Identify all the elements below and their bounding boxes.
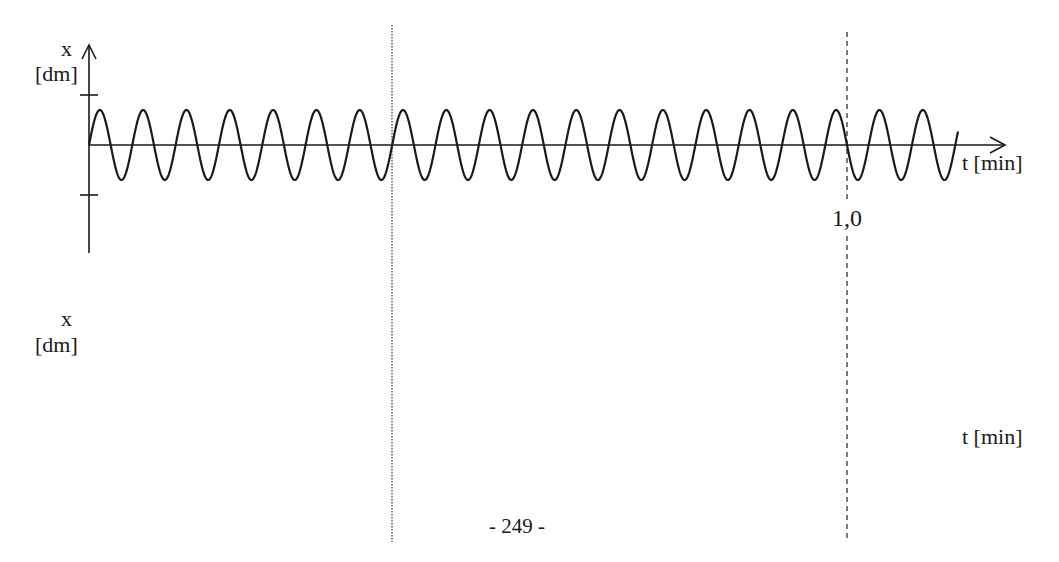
top-y-unit-label: [dm] bbox=[35, 63, 78, 85]
bottom-y-symbol-label: x bbox=[61, 308, 72, 330]
top-y-symbol-label: x bbox=[61, 38, 72, 60]
bottom-t-axis-label: t [min] bbox=[962, 426, 1023, 448]
figure-canvas bbox=[0, 0, 1059, 562]
page-number: - 249 - bbox=[489, 516, 545, 537]
top-t-axis-label: t [min] bbox=[962, 152, 1023, 174]
t-tick-label-1-0: 1,0 bbox=[832, 206, 862, 230]
bottom-y-unit-label: [dm] bbox=[35, 334, 78, 356]
